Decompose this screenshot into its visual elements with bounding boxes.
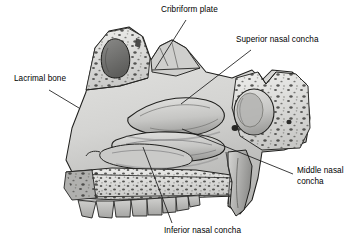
label-superior-nasal-concha: Superior nasal concha	[236, 35, 319, 46]
leader-lacrimal-bone	[49, 90, 79, 108]
label-lacrimal-bone: Lacrimal bone	[14, 74, 66, 85]
ethmoid-cribriform-region	[151, 40, 200, 76]
pterygoid-plate	[226, 150, 252, 216]
label-cribriform-plate: Cribriform plate	[161, 5, 218, 16]
label-middle-nasal-concha-line2: concha	[297, 177, 324, 188]
label-middle-nasal-concha-line1: Middle nasal	[297, 166, 344, 177]
label-inferior-nasal-concha: Inferior nasal concha	[164, 226, 241, 237]
anatomical-figure: Cribriform plate Superior nasal concha L…	[0, 0, 364, 250]
